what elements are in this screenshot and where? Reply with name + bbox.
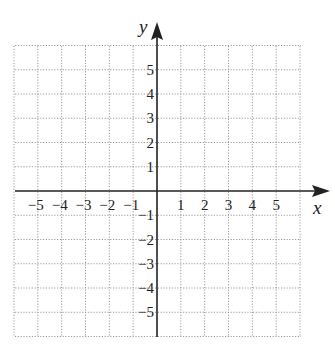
x-tick-label: −3 [76,197,92,213]
x-tick-label: 1 [177,197,185,213]
x-tick-label: 3 [225,197,233,213]
coordinate-plane: x y −5−4−3−2−112345 54321−1−2−3−4−5 [0,0,335,361]
y-tick-label: 1 [147,159,155,175]
y-tick-label: −3 [138,256,154,272]
y-tick-label: −2 [138,232,154,248]
y-tick-label: 3 [147,110,155,126]
x-tick-label: −1 [123,197,139,213]
y-tick-label: 4 [147,86,155,102]
y-tick-label: −1 [138,207,154,223]
y-tick-label: 2 [147,135,155,151]
x-tick-label: 5 [272,197,280,213]
x-tick-label: 4 [249,197,257,213]
y-tick-label: 5 [147,62,155,78]
x-tick-label: −2 [99,197,115,213]
y-tick-label: −5 [138,304,154,320]
x-tick-label: 2 [201,197,209,213]
x-tick-label: −5 [28,197,44,213]
x-axis-label: x [312,197,322,218]
x-tick-label: −4 [52,197,68,213]
y-tick-label: −4 [138,280,154,296]
y-axis-label: y [137,16,148,37]
